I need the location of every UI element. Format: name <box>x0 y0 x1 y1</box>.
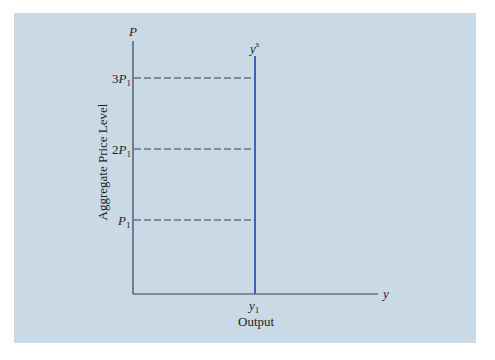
tick-p1: P1 <box>118 214 130 230</box>
tick-p1-sub: 1 <box>126 220 131 230</box>
x-axis-title: Output <box>238 315 274 328</box>
tick-2p1: 2P1 <box>112 143 131 159</box>
ys-sup: s <box>256 39 260 49</box>
tick-2p1-sub: 1 <box>126 149 131 159</box>
tick-3p1-sub: 1 <box>126 78 131 88</box>
x-axis-symbol: y <box>383 287 389 300</box>
tick-p1-p: P <box>118 213 126 228</box>
tick-3p1: 3P1 <box>112 72 131 88</box>
p-axis-label: P <box>129 25 137 38</box>
y-axis-title: Aggregate Price Level <box>95 104 111 221</box>
y1-tick-label: y1 <box>249 299 259 315</box>
ys-label: ys <box>250 40 259 55</box>
chart-plot <box>0 0 495 360</box>
